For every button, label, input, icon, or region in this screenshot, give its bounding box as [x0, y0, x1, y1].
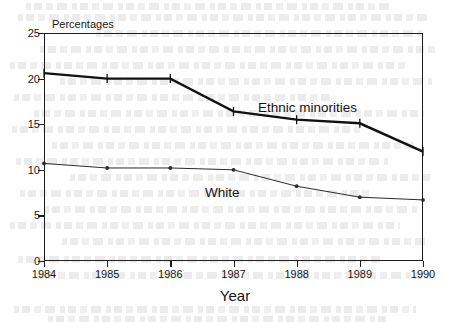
x-tick-1989 — [360, 261, 361, 267]
y-axis-title: Percentages — [52, 19, 114, 30]
y-tick-label-5: 5 — [34, 210, 40, 221]
x-tick-label-1988: 1988 — [284, 269, 308, 280]
y-tick-label-15: 15 — [28, 119, 40, 130]
marker-white-1985 — [105, 166, 109, 170]
marker-white-1988 — [295, 184, 299, 188]
x-tick-1985 — [107, 261, 108, 267]
plot-area: 0510152025 1984198519861987198819891990 … — [44, 33, 423, 261]
series-label-ethnic-minorities: Ethnic minorities — [258, 101, 357, 115]
x-tick-1987 — [234, 261, 235, 267]
x-tick-label-1987: 1987 — [221, 269, 245, 280]
y-tick-label-10: 10 — [28, 164, 40, 175]
marker-white-1989 — [358, 195, 362, 199]
y-tick-label-20: 20 — [28, 73, 40, 84]
marker-white-1990 — [421, 198, 425, 202]
marker-white-1987 — [232, 168, 236, 172]
line-chart: Percentages 0510152025 19841985198619871… — [0, 0, 450, 322]
x-tick-label-1985: 1985 — [95, 269, 119, 280]
x-tick-label-1986: 1986 — [158, 269, 182, 280]
y-tick-label-0: 0 — [34, 256, 40, 267]
x-tick-1986 — [170, 261, 171, 267]
x-axis-title-text: Year — [220, 287, 250, 304]
marker-white-1986 — [168, 166, 172, 170]
y-tick-label-25: 25 — [28, 28, 40, 39]
series-label-white: White — [205, 186, 240, 200]
series-plot — [44, 33, 423, 261]
marker-white-1984 — [42, 162, 46, 166]
x-axis-title: Year — [0, 288, 450, 303]
x-tick-label-1990: 1990 — [411, 269, 435, 280]
x-tick-label-1989: 1989 — [348, 269, 372, 280]
x-tick-label-1984: 1984 — [32, 269, 56, 280]
x-tick-1990 — [423, 261, 424, 267]
x-tick-1988 — [297, 261, 298, 267]
x-tick-1984 — [44, 261, 45, 267]
